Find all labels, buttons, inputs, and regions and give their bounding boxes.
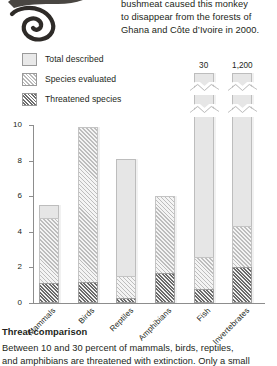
threat-comparison-chart: Thousands of species 0246810MammalsBirds…: [0, 118, 277, 308]
bar-threatened-species-invertebrates: [232, 267, 252, 303]
bar-threatened-species-amphibians: [155, 273, 175, 303]
legend-label-total-described: Total described: [45, 54, 104, 64]
legend-label-threatened-species: Threatened species: [45, 94, 121, 104]
top-caption-line-3: Ghana and Côte d’Ivoire in 2000.: [121, 24, 277, 37]
top-caption-line-2: to disappear from the forests of: [121, 11, 277, 24]
bar-group-mammals[interactable]: [39, 125, 59, 303]
legend-swatch-species-evaluated-icon: [22, 73, 37, 86]
bar-value-label-fish: 30: [199, 61, 208, 70]
bar-threatened-species-birds: [78, 282, 98, 303]
y-axis-tick: 2: [29, 267, 34, 268]
bottom-caption-line-1: Between 10 and 30 percent of mammals, bi…: [2, 342, 275, 355]
legend-label-species-evaluated: Species evaluated: [45, 74, 116, 84]
y-axis-tick-label: 8: [18, 156, 22, 165]
legend-item-threatened-species: Threatened species: [22, 90, 121, 108]
legend-swatch-total-described-icon: [22, 53, 37, 66]
bar-group-reptiles[interactable]: [116, 125, 136, 303]
y-axis-tick: 0: [29, 303, 34, 304]
x-axis-label-birds: Birds: [77, 306, 97, 326]
y-axis-tick: 10: [29, 125, 34, 126]
bar-group-amphibians[interactable]: [155, 125, 175, 303]
chart-legend: Total described Species evaluated Threat…: [22, 50, 121, 110]
y-axis-tick-label: 0: [18, 298, 22, 307]
axis-break-zigzag-icon: [190, 82, 219, 95]
bar-group-birds[interactable]: [78, 125, 98, 303]
bar-value-label-invertebrates: 1,200: [232, 61, 253, 70]
bottom-caption-title: Threat comparison: [2, 326, 275, 337]
bar-group-fish[interactable]: 30: [194, 125, 214, 303]
bottom-caption-line-2: and amphibians are threatened with extin…: [2, 355, 275, 366]
monkey-photo: [0, 0, 116, 48]
y-axis-tick-label: 6: [18, 191, 22, 200]
x-axis-label-fish: Fish: [195, 306, 212, 323]
y-axis-tick: 4: [29, 232, 34, 233]
infographic-page: bushmeat caused this monkey to disappear…: [0, 0, 277, 366]
x-axis-line: [33, 303, 265, 304]
bottom-caption-body: Between 10 and 30 percent of mammals, bi…: [2, 342, 275, 366]
bar-group-invertebrates[interactable]: 1,200: [232, 125, 252, 303]
y-axis-tick: 8: [29, 161, 34, 162]
legend-item-total-described: Total described: [22, 50, 121, 68]
y-axis-tick-label: 4: [18, 227, 22, 236]
axis-break-zigzag-icon: [190, 104, 219, 117]
bar-threatened-species-mammals: [39, 283, 59, 303]
y-axis-tick-label: 10: [13, 120, 22, 129]
legend-item-species-evaluated: Species evaluated: [22, 70, 121, 88]
y-axis-tick: 6: [29, 196, 34, 197]
y-axis-line: [33, 125, 34, 303]
axis-break-zigzag-icon: [228, 82, 257, 95]
top-caption: bushmeat caused this monkey to disappear…: [121, 0, 277, 38]
bottom-caption: Threat comparison Between 10 and 30 perc…: [2, 326, 275, 366]
bar-threatened-species-reptiles: [116, 298, 136, 303]
top-caption-line-1: bushmeat caused this monkey: [121, 0, 277, 11]
bar-threatened-species-fish: [194, 289, 214, 303]
axis-break-zigzag-icon: [228, 104, 257, 117]
bar-species-evaluated-birds: [78, 127, 98, 303]
plot-area: 0246810MammalsBirdsReptilesAmphibians30F…: [33, 125, 271, 303]
y-axis-tick-label: 2: [18, 262, 22, 271]
legend-swatch-threatened-species-icon: [22, 93, 37, 106]
